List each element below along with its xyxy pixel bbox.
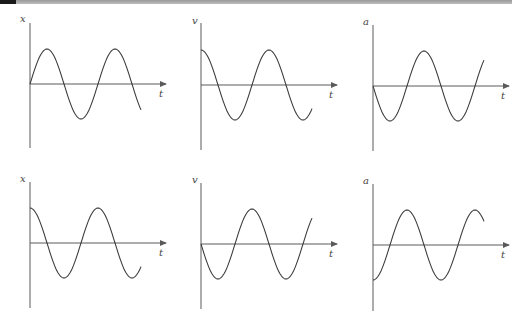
y-axis-label: v bbox=[192, 174, 198, 185]
t-axis-label: t bbox=[501, 90, 506, 101]
y-axis-label: x bbox=[20, 173, 26, 184]
panel-top-acceleration: a t bbox=[363, 16, 509, 151]
y-axis-label: a bbox=[363, 16, 369, 27]
panel-bottom-velocity: v t bbox=[192, 174, 337, 309]
t-axis-label: t bbox=[329, 89, 334, 100]
panel-bottom-acceleration: a t bbox=[363, 175, 509, 311]
y-axis-label: a bbox=[363, 175, 369, 186]
t-axis-label: t bbox=[329, 248, 334, 259]
panel-bottom-displacement: x t bbox=[20, 173, 166, 308]
y-axis-label: x bbox=[20, 13, 26, 24]
y-axis-label: v bbox=[192, 15, 198, 26]
t-axis-label: t bbox=[159, 247, 164, 258]
t-axis-label: t bbox=[501, 249, 506, 260]
t-axis-label: t bbox=[159, 88, 164, 99]
panel-top-velocity: v t bbox=[192, 15, 337, 150]
panel-top-displacement: x t bbox=[20, 13, 166, 148]
shm-graphs-figure: x t v t a t x t v t a t bbox=[0, 0, 521, 320]
